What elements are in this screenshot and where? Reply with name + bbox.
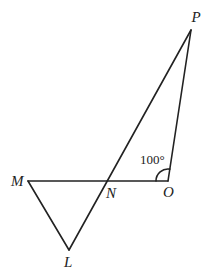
geometry-diagram: P M N O L 100° <box>0 0 204 279</box>
segment-ML <box>28 181 69 250</box>
segment-LP <box>69 30 191 250</box>
label-L: L <box>63 254 72 270</box>
label-N: N <box>105 185 117 201</box>
label-P: P <box>190 9 200 25</box>
label-O: O <box>163 184 174 200</box>
angle-label-O: 100° <box>140 152 165 167</box>
segment-PO <box>168 30 191 181</box>
label-M: M <box>10 173 25 189</box>
